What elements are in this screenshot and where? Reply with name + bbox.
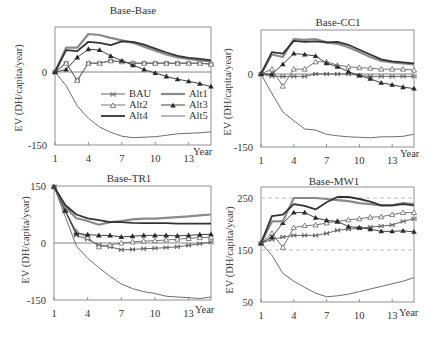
legend-item-bau: BAU [100,88,151,99]
series-alt5 [261,243,414,297]
legend-label: Alt1 [189,88,208,99]
legend-item-alt5: Alt5 [160,110,208,121]
alt1-legend-swatch-icon [160,90,186,98]
legend-label: Alt3 [189,99,208,110]
alt2-legend-swatch-icon [100,101,126,109]
legend-item-alt3: Alt3 [160,99,208,110]
alt4-legend-swatch-icon [100,112,126,120]
x-marker-icon [111,92,115,96]
panel-base-mw1: Base-MW1 EV (DH/capita/year) Year 147101… [0,0,438,340]
bau-legend-swatch-icon [100,90,126,98]
y-tick-label: 50 [243,297,254,308]
alt5-legend-swatch-icon [160,112,186,120]
x-axis-label: Year [399,307,418,318]
triangle-filled-marker-icon [400,228,406,233]
chart-title: Base-MW1 [309,175,360,187]
legend-item-alt1: Alt1 [160,88,208,99]
legend-label: Alt2 [129,99,148,110]
x-tick-label: 1 [258,310,263,321]
legend-label: Alt5 [189,110,208,121]
legend-item-alt4: Alt4 [100,110,148,121]
legend-item-alt2: Alt2 [100,99,148,110]
x-tick-label: 4 [291,310,296,321]
legend-label: BAU [129,88,151,99]
y-tick-label: 150 [237,245,253,256]
y-tick-label: 250 [237,193,253,204]
x-tick-label: 13 [387,310,398,321]
legend-label: Alt4 [129,110,148,121]
legend: BAU Alt1 Alt2 Alt3 Alt4 Alt5 [100,88,220,122]
x-tick-label: 10 [354,310,365,321]
plot-svg [0,0,438,340]
y-axis-label: EV (DH/capita/year) [224,206,235,294]
triangle-filled-marker-icon [346,224,352,229]
alt3-legend-swatch-icon [160,101,186,109]
x-tick-label: 7 [324,310,329,321]
